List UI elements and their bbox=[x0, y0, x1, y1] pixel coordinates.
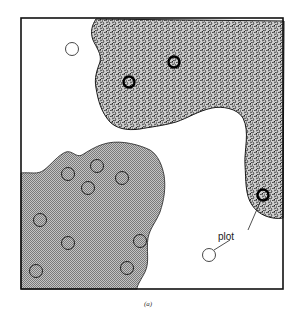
gray-fine-region bbox=[21, 142, 165, 289]
open-plot-circle bbox=[66, 43, 79, 56]
figure-caption: (a) bbox=[144, 300, 153, 308]
plot-label: plot bbox=[218, 231, 234, 242]
plot-diagram: plot (a) bbox=[0, 0, 296, 327]
open-plot-circle bbox=[203, 249, 216, 262]
